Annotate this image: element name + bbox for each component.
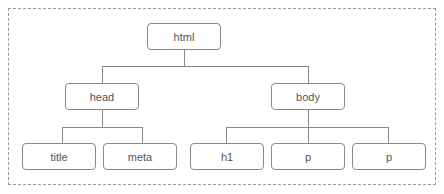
connector-to-h1 — [226, 127, 227, 143]
connector-to-head — [102, 66, 103, 83]
connector-html-down — [184, 50, 185, 66]
node-h1: h1 — [190, 143, 264, 170]
node-p: p — [271, 143, 345, 170]
connector-to-body — [308, 66, 309, 83]
node-html: html — [147, 23, 221, 50]
node-title: title — [22, 143, 96, 170]
connector-body-bar — [226, 127, 389, 128]
connector-head-bar — [62, 127, 143, 128]
connector-head-down — [102, 110, 103, 127]
connector-to-p2 — [388, 127, 389, 143]
node-body: body — [271, 83, 345, 110]
node-head: head — [65, 83, 139, 110]
connector-to-meta — [142, 127, 143, 143]
connector-to-title — [62, 127, 63, 143]
node-meta: meta — [103, 143, 177, 170]
node-p: p — [352, 143, 426, 170]
connector-level1-bar — [102, 66, 309, 67]
